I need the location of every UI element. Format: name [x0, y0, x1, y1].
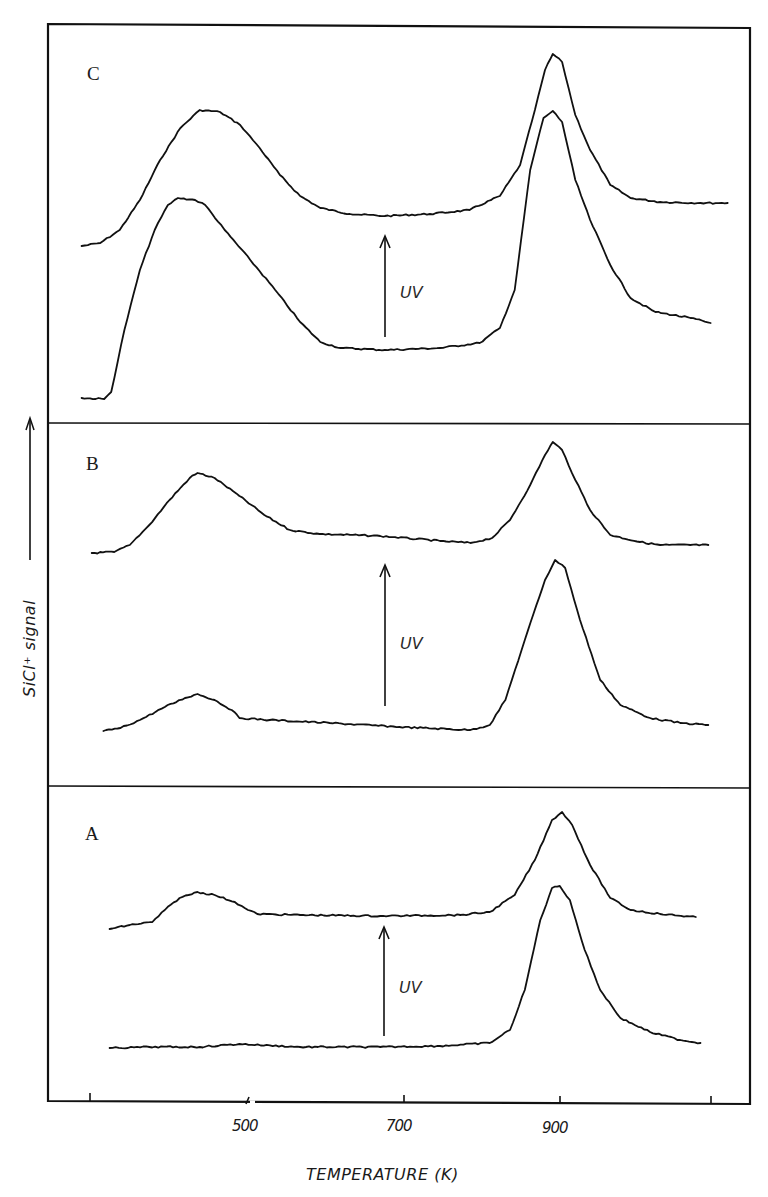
x-tick-label-700: 700	[386, 1117, 412, 1135]
y-axis-label-group: SiCl⁺ signal	[20, 418, 39, 697]
uv-arrow-a: UV	[379, 927, 423, 1036]
panel-label-b: B	[86, 453, 99, 474]
trace-panel-c-lower	[82, 111, 711, 399]
panel-divider-ba	[48, 786, 750, 788]
uv-label-a: UV	[399, 978, 423, 997]
uv-label-c: UV	[400, 283, 424, 302]
x-axis-title: TEMPERATURE (K)	[306, 1165, 459, 1184]
panel-label-c: C	[87, 63, 100, 84]
y-axis-title: SiCl⁺ signal	[20, 600, 39, 697]
uv-arrow-c: UV	[380, 236, 424, 337]
panel-label-a: A	[85, 823, 99, 844]
x-tick-label-500: 500	[232, 1117, 258, 1135]
trace-panel-a-lower	[110, 886, 701, 1048]
plot-frame	[48, 24, 750, 1104]
trace-group	[82, 54, 728, 1048]
trace-panel-c-upper	[82, 54, 728, 246]
panel-divider-cb	[48, 423, 750, 424]
x-tick-label-900: 900	[542, 1119, 568, 1137]
uv-label-b: UV	[400, 634, 424, 653]
uv-arrow-b: UV	[380, 565, 424, 706]
tpd-chart: 500 700 900 TEMPERATURE (K) SiCl⁺ signal…	[0, 0, 768, 1197]
trace-panel-a-upper	[110, 812, 696, 929]
trace-panel-b-upper	[92, 442, 709, 554]
